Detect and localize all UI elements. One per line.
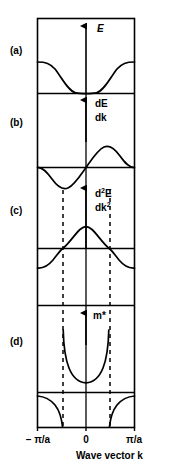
panel-label-b: (b) bbox=[10, 117, 23, 128]
label-second-derivative-denominator-sup: 2 bbox=[107, 201, 111, 208]
figure-plot-area bbox=[0, 0, 175, 474]
axis-label-wave-vector: Wave vector k bbox=[76, 450, 143, 461]
panel-label-c: (c) bbox=[10, 205, 22, 216]
figure-band-structure-derivatives: (a) (b) (c) (d) E dE dk d2E dk2 m* – π/a… bbox=[0, 0, 175, 474]
label-second-derivative-denominator-pre: dk bbox=[95, 202, 107, 213]
label-first-derivative-denominator: dk bbox=[95, 113, 107, 123]
label-first-derivative-numerator: dE bbox=[95, 99, 108, 109]
axis-tick-pi-over-a: π/a bbox=[116, 434, 152, 445]
panel-label-d: (d) bbox=[10, 336, 23, 347]
label-second-derivative-numerator: d2E bbox=[95, 186, 112, 199]
label-energy: E bbox=[97, 24, 104, 34]
label-second-derivative-numerator-post: E bbox=[105, 188, 112, 199]
curve-effective-mass-negative-left bbox=[38, 396, 63, 427]
axis-tick-zero: 0 bbox=[71, 434, 101, 445]
axis-tick-minus-pi-over-a: – π/a bbox=[17, 434, 59, 445]
label-second-derivative-denominator: dk2 bbox=[95, 200, 111, 213]
curve-effective-mass-negative-right bbox=[109, 396, 134, 427]
panel-label-a: (a) bbox=[10, 45, 22, 56]
label-effective-mass: m* bbox=[93, 311, 106, 321]
